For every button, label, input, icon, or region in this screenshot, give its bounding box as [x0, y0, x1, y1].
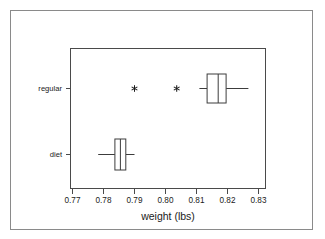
x-tick-label-6: 0.83	[251, 196, 267, 205]
x-axis-title: weight (lbs)	[140, 210, 195, 222]
category-label-regular: regular	[38, 84, 62, 93]
box-regular	[207, 74, 226, 103]
x-tick-label-4: 0.81	[189, 196, 205, 205]
x-tick-label-1: 0.78	[96, 196, 112, 205]
boxplot-figure: 0.77 0.78 0.79 0.80 0.81 0.82 0.83 weigh…	[0, 0, 325, 239]
x-tick-label-0: 0.77	[65, 196, 81, 205]
x-tick-label-5: 0.82	[220, 196, 236, 205]
x-tick-label-2: 0.79	[127, 196, 143, 205]
category-label-diet: diet	[50, 150, 63, 159]
x-tick-label-3: 0.80	[158, 196, 174, 205]
